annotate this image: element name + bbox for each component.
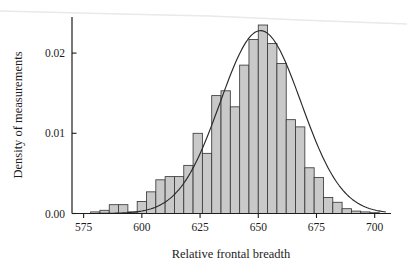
histogram-bar — [296, 127, 305, 214]
histogram-bar — [249, 39, 258, 213]
histogram-bar — [202, 153, 211, 213]
histogram-bar — [314, 177, 323, 213]
histogram-bar — [305, 168, 314, 214]
histogram-bar — [193, 133, 202, 213]
x-tick-label: 700 — [366, 221, 384, 233]
density-histogram-chart: 0.000.010.02 575600625650675700 Relative… — [0, 0, 407, 274]
histogram-bar — [221, 91, 230, 214]
x-tick-label: 625 — [191, 221, 209, 233]
y-tick-label: 0.00 — [45, 208, 65, 220]
histogram-bar — [109, 205, 118, 214]
x-tick-label: 650 — [250, 221, 268, 233]
histogram-bar — [333, 202, 342, 213]
histogram-bar — [258, 25, 267, 213]
y-tick-label: 0.01 — [45, 127, 65, 139]
histogram-bar — [240, 65, 249, 213]
histogram-bar — [323, 197, 332, 213]
x-tick-label: 600 — [133, 221, 151, 233]
histogram-figure: 0.000.010.02 575600625650675700 Relative… — [0, 0, 407, 274]
y-tick-label: 0.02 — [45, 47, 65, 59]
x-tick-label: 575 — [75, 221, 93, 233]
histogram-bar — [268, 43, 277, 213]
x-tick-label: 675 — [308, 221, 326, 233]
y-axis-title: Density of measurements — [11, 51, 25, 178]
histogram-bar — [342, 209, 351, 214]
histogram-bar — [230, 107, 239, 214]
histogram-bar — [277, 64, 286, 214]
x-axis-title: Relative frontal breadth — [172, 247, 291, 261]
histogram-bar — [184, 165, 193, 213]
histogram-bar — [174, 177, 183, 214]
histogram-bar — [156, 180, 165, 214]
histogram-bar — [286, 120, 295, 214]
